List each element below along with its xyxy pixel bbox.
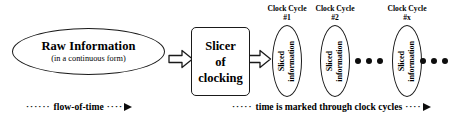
clock-cycle-group: Clock Cycle #2 Sliced information <box>311 4 359 97</box>
caption-trail-dots: ···· <box>405 102 421 111</box>
caption-lead-dots: ······ <box>26 102 51 111</box>
caption-trail-dots: ···· <box>107 102 123 111</box>
sliced-information-line-2: information <box>408 41 416 82</box>
ellipsis-separator-middle <box>355 58 383 64</box>
clock-cycle-header-title: Clock Cycle <box>315 4 354 13</box>
clock-cycle-header: Clock Cycle #2 <box>311 4 359 22</box>
arrow-right-icon <box>124 103 132 111</box>
clock-cycle-header-number: #x <box>383 13 431 22</box>
ellipsis-dot <box>442 58 448 64</box>
slicer-line-1: Slicer <box>205 38 236 54</box>
sliced-information-line-1: Sliced <box>398 51 406 71</box>
raw-information-ellipse: Raw Information (in a continuous form) <box>12 28 165 75</box>
sliced-information-line-2: information <box>336 41 344 82</box>
clock-cycles-caption: ····· time is marked through clock cycle… <box>232 101 431 112</box>
sliced-information-line-1: Sliced <box>326 51 334 71</box>
clock-cycle-header-number: #2 <box>311 13 359 22</box>
sliced-information-line-1: Sliced <box>278 51 286 71</box>
clock-cycle-header-title: Clock Cycle <box>387 4 426 13</box>
ellipsis-dot <box>420 58 426 64</box>
slicer-of-clocking-box: Slicer of clocking <box>191 27 250 96</box>
sliced-information-ellipse: Sliced information <box>272 25 302 97</box>
caption-lead-dots: ····· <box>232 102 253 111</box>
clock-cycle-header: Clock Cycle #1 <box>263 4 311 22</box>
flow-of-time-label: flow-of-time <box>54 101 104 112</box>
raw-information-subtitle: (in a continuous form) <box>51 55 125 64</box>
sliced-information-ellipse: Sliced information <box>392 25 422 97</box>
ellipsis-dot <box>431 58 437 64</box>
diagram-canvas: Raw Information (in a continuous form) S… <box>0 0 451 126</box>
slicer-line-3: clocking <box>198 70 242 86</box>
slicer-line-2: of <box>215 54 225 70</box>
clock-cycle-header-title: Clock Cycle <box>267 4 306 13</box>
sliced-information-line-2: information <box>288 41 296 82</box>
clock-cycle-group: Clock Cycle #1 Sliced information <box>263 4 311 97</box>
clock-cycle-group: Clock Cycle #x Sliced information <box>383 4 431 97</box>
ellipsis-dot <box>355 58 361 64</box>
clock-cycle-header: Clock Cycle #x <box>383 4 431 22</box>
ellipsis-dot <box>366 58 372 64</box>
clock-cycles-label: time is marked through clock cycles <box>256 101 403 112</box>
sliced-information-ellipse: Sliced information <box>320 25 350 97</box>
arrow-right-icon <box>423 103 431 111</box>
raw-information-title: Raw Information <box>41 40 135 53</box>
clock-cycle-header-number: #1 <box>263 13 311 22</box>
ellipsis-separator-trailing <box>420 58 448 64</box>
flow-of-time-caption: ······ flow-of-time ···· <box>26 101 132 112</box>
